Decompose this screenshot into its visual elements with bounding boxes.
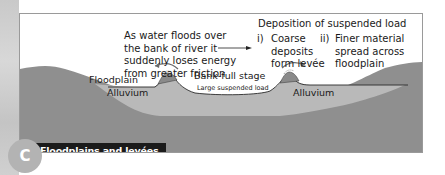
point-ii-text: Finer material spread across floodplain	[335, 33, 404, 71]
bank-full-stage-label: Bank-full stage	[194, 70, 265, 82]
point-i-marker: i)	[257, 33, 264, 46]
point-i-text: Coarse deposits form levée	[271, 33, 325, 71]
note-line: suddenly loses energy	[124, 55, 236, 68]
note-line: As water floods over	[124, 30, 236, 43]
right-levee	[280, 72, 299, 83]
alluvium-label-left: Alluvium	[107, 87, 148, 99]
alluvium-label-right: Alluvium	[293, 87, 334, 99]
large-suspended-load-label: Large suspended load	[197, 84, 269, 92]
diagram-frame: As water floods over the bank of river i…	[19, 13, 423, 153]
figure-title: Floodplains and levées	[29, 143, 166, 153]
note-line: Coarse	[271, 33, 325, 46]
figure-badge: C	[8, 139, 42, 173]
note-line: form levée	[271, 58, 325, 71]
floodplain-label: Floodplain	[89, 74, 138, 86]
deposition-heading: Deposition of suspended load	[258, 18, 406, 31]
point-ii-marker: ii)	[320, 33, 329, 46]
note-line: the bank of river it	[124, 43, 236, 56]
note-line: Finer material	[335, 33, 404, 46]
note-line: floodplain	[335, 58, 404, 71]
note-line: deposits	[271, 46, 325, 59]
note-line: spread across	[335, 46, 404, 59]
